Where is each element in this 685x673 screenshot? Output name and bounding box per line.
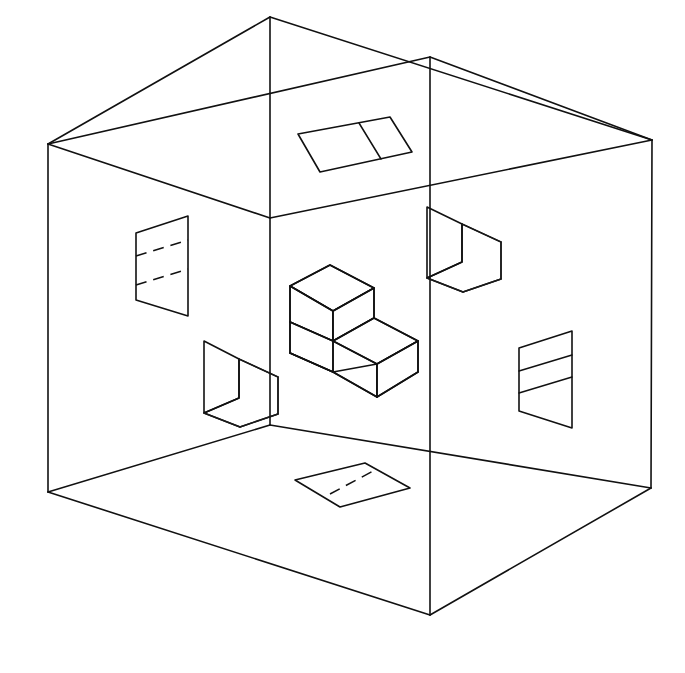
bottom-edge-right <box>430 488 651 615</box>
floor-panel-face <box>295 463 410 507</box>
right-standing-panel-near-flap <box>427 207 462 278</box>
center-step-block <box>290 265 418 397</box>
right-standing-panel-bend-top <box>462 224 501 242</box>
right-standing-panel-lower-edge <box>463 279 501 292</box>
outer-vertical-right <box>651 140 652 488</box>
ceiling-panel-face <box>298 117 412 172</box>
left-standing-panel-bend-bottom <box>204 413 240 427</box>
left-standing-panel <box>204 341 278 427</box>
left-standing-panel-near-flap <box>204 341 239 413</box>
right-standing-panel <box>427 207 501 292</box>
right-standing-panel-bend-bottom <box>427 278 463 292</box>
ceiling-far-edge-right <box>430 57 652 140</box>
ceiling-edge-left <box>48 17 270 144</box>
ceiling-panel <box>298 117 412 172</box>
right-wall-panel <box>519 331 572 428</box>
ceiling-edge-right <box>270 17 652 140</box>
isometric-room-drawing <box>0 0 685 673</box>
bottom-edge-left <box>48 492 430 615</box>
figure-root <box>0 0 685 673</box>
left-wall-panel <box>136 216 188 316</box>
left-wall-panel-face <box>136 216 188 316</box>
floor-edge-left <box>48 425 270 492</box>
left-standing-panel-bend-top <box>239 359 278 377</box>
floor-panel <box>295 463 410 507</box>
wall-top-edge-left <box>48 144 270 218</box>
